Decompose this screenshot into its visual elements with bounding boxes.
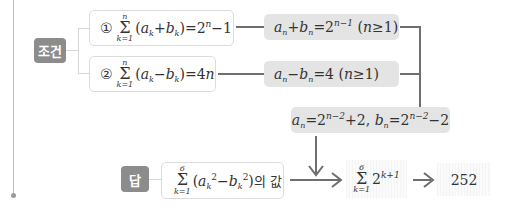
sigma-symbol: n Σ k=1	[117, 59, 134, 89]
sigma-symbol: 6 Σ k=1	[353, 164, 370, 194]
condition-1-box: ① n Σ k=1 (ak+bk)=2n−1	[89, 10, 234, 46]
condition-2-expression: (ak−bk)=4n	[135, 66, 214, 82]
condition-1-marker: ①	[100, 20, 113, 36]
intermediate-sum-box: 6 Σ k=1 2k+1	[346, 160, 407, 198]
result-2-box: an−bn=4 (n≥1)	[264, 61, 399, 87]
margin-line-end-dot	[11, 193, 16, 198]
sigma-symbol: n Σ k=1	[117, 13, 134, 43]
combined-result-expression: an=2n−2+2, bn=2n−2−2	[292, 112, 449, 128]
final-value: 252	[451, 172, 478, 188]
result-1-expression: an+bn=2n−1 (n≥1)	[274, 19, 398, 35]
condition-badge: 조건	[34, 38, 66, 63]
condition-bracket-vertical	[78, 28, 79, 74]
condition-bracket-top	[78, 28, 89, 29]
margin-line	[13, 0, 14, 195]
answer-badge-label: 답	[129, 170, 141, 189]
answer-question-expression: (ak2−bk2)	[193, 173, 254, 189]
sigma-symbol: 6 Σ k=1	[174, 165, 191, 195]
condition-badge-label: 조건	[38, 41, 62, 60]
condition-2-marker: ②	[100, 66, 113, 82]
merge-connector-vertical	[419, 26, 421, 108]
answer-badge-connector	[149, 179, 161, 180]
merge-connector-bottom	[400, 73, 421, 75]
answer-question-suffix: 의 값	[254, 171, 282, 190]
merge-connector-top	[400, 26, 421, 28]
right-arrow-1-icon	[330, 171, 343, 189]
right-arrow-2-icon	[422, 171, 435, 189]
condition-1-expression: (ak+bk)=2n−1	[135, 20, 232, 36]
intermediate-sum-expression: 2k+1	[372, 171, 400, 187]
answer-question-box: 6 Σ k=1 (ak2−bk2) 의 값	[161, 162, 284, 199]
connector-2	[218, 73, 264, 75]
final-value-box: 252	[437, 163, 491, 196]
answer-badge: 답	[121, 166, 149, 192]
result-1-box: an+bn=2n−1 (n≥1)	[264, 14, 399, 40]
result-2-expression: an−bn=4 (n≥1)	[274, 66, 379, 82]
condition-bracket-bottom	[78, 73, 89, 74]
combined-result-box: an=2n−2+2, bn=2n−2−2	[291, 107, 450, 133]
connector-1	[236, 26, 264, 28]
condition-2-box: ② n Σ k=1 (ak−bk)=4n	[89, 56, 216, 92]
down-arrow-icon	[307, 164, 325, 177]
condition-bracket-stem	[66, 50, 78, 51]
